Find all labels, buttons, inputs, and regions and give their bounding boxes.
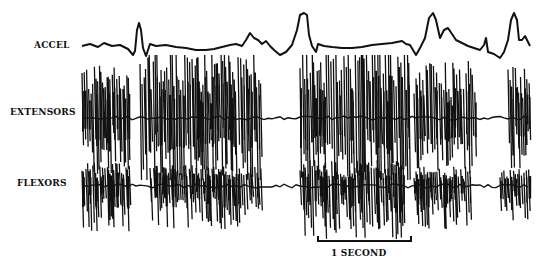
flexors-label: FLEXORS <box>17 178 67 188</box>
accel-trace <box>82 13 530 58</box>
extensors-label: EXTENSORS <box>10 107 76 117</box>
tremor-recording-figure <box>0 0 543 270</box>
accel-label: ACCEL <box>34 40 70 50</box>
scale-bar-label: 1 SECOND <box>331 248 386 258</box>
flexors-emg-trace <box>82 160 531 239</box>
